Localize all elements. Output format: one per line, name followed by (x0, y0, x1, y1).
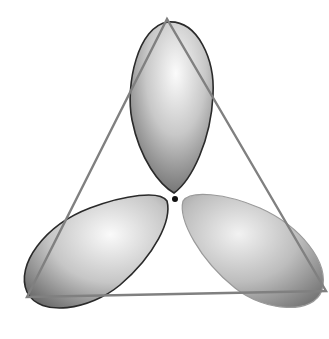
sp2-orbital-diagram (0, 0, 329, 339)
left-orbital-lobe (24, 195, 168, 308)
nucleus-dot (172, 196, 178, 202)
top-orbital-lobe (130, 22, 213, 193)
